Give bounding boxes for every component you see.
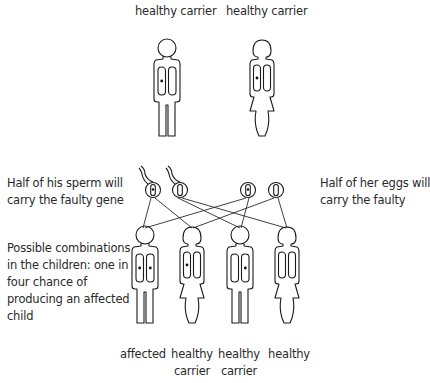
faulty-gene-dot bbox=[149, 267, 152, 270]
egg-healthy bbox=[269, 183, 284, 198]
child-healthy bbox=[275, 227, 299, 323]
mother-figure bbox=[250, 40, 274, 136]
sperm-healthy bbox=[166, 166, 188, 198]
child-affected bbox=[132, 226, 158, 323]
faulty-gene-dot bbox=[160, 80, 163, 83]
faulty-gene-dot bbox=[256, 77, 259, 80]
faulty-gene-dot bbox=[186, 264, 189, 267]
father-figure bbox=[154, 39, 180, 136]
child-healthy-carrier-female bbox=[180, 227, 204, 323]
faulty-gene-dot bbox=[244, 267, 247, 270]
faulty-gene-dot bbox=[138, 267, 141, 270]
connection-lines bbox=[143, 198, 287, 228]
egg-faulty bbox=[241, 183, 256, 198]
child-healthy-carrier-male bbox=[227, 226, 253, 323]
sperm-faulty bbox=[139, 166, 161, 198]
